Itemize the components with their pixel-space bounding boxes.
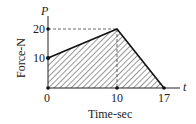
tick-dot <box>46 86 50 90</box>
x-tick-0: 0 <box>44 91 50 105</box>
tick-dot <box>46 27 50 31</box>
impulse-area <box>48 29 164 88</box>
y-tick-10: 10 <box>33 51 45 65</box>
x-tick-17: 17 <box>158 91 170 105</box>
y-axis-label: Force-N <box>14 38 28 78</box>
x-tick-10: 10 <box>111 91 123 105</box>
tick-dot <box>115 86 119 90</box>
force-time-chart: P t 20 10 0 10 17 Time-sec Force-N <box>0 0 196 124</box>
y-axis-symbol: P <box>40 4 49 18</box>
x-axis-label: Time-sec <box>88 107 132 121</box>
y-tick-20: 20 <box>33 22 45 36</box>
x-axis-symbol: t <box>183 80 187 94</box>
tick-dot <box>46 56 50 60</box>
tick-dot <box>162 86 166 90</box>
